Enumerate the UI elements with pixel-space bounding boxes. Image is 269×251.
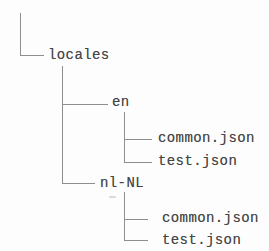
tree-connector-en-common-branch [124,139,152,140]
tree-connector-nl-test-branch [124,240,148,241]
tree-node-locales: locales [48,47,110,63]
tree-connector-en-test-branch [124,162,152,163]
tree-connector-en-vertical [124,112,125,163]
tree-node-nl-test-json: test.json [162,232,241,248]
file-tree-diagram: locales en common.json test.json nl-NL c… [0,0,269,251]
tree-connector-root-elbow [20,55,44,56]
tree-node-en-common-json: common.json [158,130,255,146]
tree-node-nl-common-json: common.json [162,210,259,226]
tree-connector-en-branch [62,104,108,105]
tree-node-nl-nl: nl-NL [100,175,144,191]
tree-node-en-test-json: test.json [158,153,237,169]
tree-connector-nl-branch [62,183,95,184]
tree-connector-nl-vertical [124,192,125,241]
tree-node-en: en [112,94,130,110]
scan-artifact [109,196,116,198]
tree-connector-root-vertical [20,13,21,56]
tree-connector-nl-common-branch [124,219,148,220]
tree-connector-locales-vertical [62,66,63,184]
